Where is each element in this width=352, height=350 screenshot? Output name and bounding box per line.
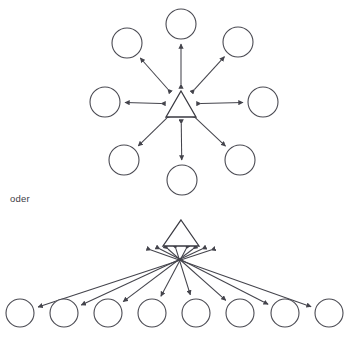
- radial-node-n5: [167, 165, 197, 195]
- topology-diagram-svg: [0, 0, 352, 350]
- fan-node-m6: [226, 299, 254, 327]
- fan-node-m2: [50, 299, 78, 327]
- fan-node-group: [6, 299, 343, 327]
- radial-edge-n3: [201, 102, 243, 103]
- diagram-canvas: oder: [0, 0, 352, 350]
- fan-hub-group: [163, 220, 199, 246]
- fan-edge-m2: [81, 249, 202, 305]
- radial-edge-n4: [196, 118, 226, 146]
- fan-edge-m7: [160, 249, 268, 304]
- radial-node-n4: [225, 145, 255, 175]
- radial-edge-n2: [195, 57, 225, 90]
- radial-node-n7: [90, 87, 120, 117]
- fan-node-m3: [94, 299, 122, 327]
- radial-node-n3: [248, 87, 278, 117]
- fan-node-m1: [6, 299, 34, 327]
- radial-node-n8: [112, 28, 142, 58]
- radial-node-n2: [223, 27, 253, 57]
- fan-edge-group: [38, 249, 311, 307]
- radial-node-n6: [109, 145, 139, 175]
- fan-node-m8: [315, 299, 343, 327]
- fan-node-m7: [271, 299, 299, 327]
- connector-label: oder: [10, 194, 30, 204]
- radial-node-n1: [166, 9, 196, 39]
- fan-node-m4: [138, 299, 166, 327]
- radial-hub-group: [166, 91, 196, 117]
- radial-hub-triangle: [166, 91, 196, 117]
- fan-node-m5: [182, 299, 210, 327]
- fan-edge-m6: [168, 249, 226, 300]
- radial-edge-n8: [140, 58, 167, 89]
- fan-edge-m8: [151, 250, 311, 307]
- radial-edge-n7: [125, 103, 161, 104]
- radial-edge-n6: [138, 118, 166, 146]
- fan-hub-triangle: [163, 220, 199, 246]
